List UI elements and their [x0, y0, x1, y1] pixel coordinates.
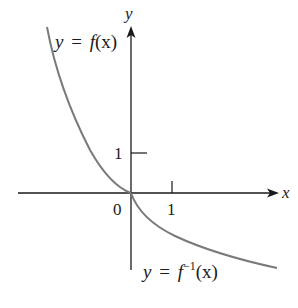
label-sup: −1 — [183, 259, 196, 273]
x-tick-label: 1 — [167, 200, 176, 219]
origin-label: 0 — [113, 200, 122, 219]
label-eq: = — [71, 31, 82, 52]
label-arg: (x) — [95, 31, 117, 53]
curve-f-inverse-label: y = f−1(x) — [141, 259, 218, 283]
diagram-svg: y x 0 1 1 y = f(x) y = f−1(x) — [0, 0, 298, 308]
function-inverse-diagram: y x 0 1 1 y = f(x) y = f−1(x) — [0, 0, 298, 308]
y-axis-label: y — [123, 4, 133, 23]
label-arg: (x) — [196, 261, 218, 283]
label-lhs: y — [53, 31, 64, 52]
curve-f-inverse — [131, 193, 277, 268]
x-axis-label: x — [281, 183, 290, 202]
y-tick-label: 1 — [114, 144, 123, 163]
curve-f-label: y = f(x) — [53, 31, 117, 53]
label-lhs: y — [141, 261, 152, 282]
label-eq: = — [159, 261, 170, 282]
